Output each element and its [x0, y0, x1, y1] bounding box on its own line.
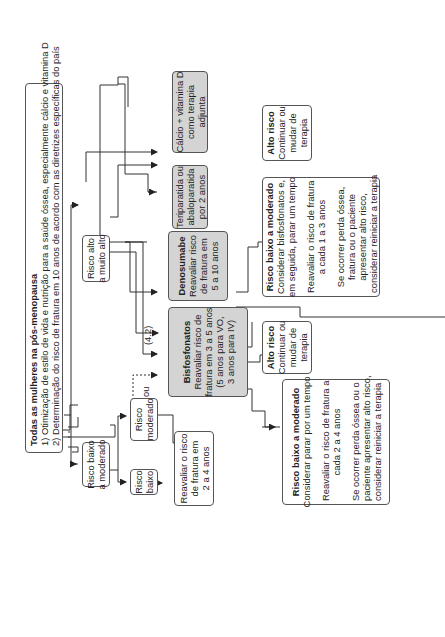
note-paragraph: Se ocorrer perda óssea ou o paciente apr…	[350, 383, 383, 501]
label: Reavaliar o risco	[178, 434, 189, 504]
label: a muito alto	[96, 234, 107, 282]
label: cada 2 a 4 anos	[331, 383, 342, 501]
label: 2 a 4 anos	[200, 447, 211, 491]
label: como terapia	[185, 85, 196, 139]
label: mudar de	[287, 113, 298, 153]
label: Risco alto	[85, 238, 96, 279]
label: Reavaliar risco	[187, 235, 198, 297]
label: Cálcio + vitamina D	[174, 71, 185, 152]
label: considerar reiniciar a terapia	[368, 181, 379, 293]
teriparatide-box: Teriparatida ou abaloparatida por 2 anos	[172, 165, 208, 229]
intro-line-1: 1) Otimização de estilo de vida e nutriç…	[39, 42, 50, 446]
label: fratura ou o paciente	[346, 181, 357, 293]
label: Reavaliar o risco de fratura	[305, 181, 316, 293]
label: adjunta	[196, 97, 207, 128]
title: Alto risco	[265, 326, 276, 369]
risk-low-box: Risco baixo	[130, 469, 158, 495]
intro-line-2: 2) Determinação do risco de fratura em 1…	[50, 46, 61, 446]
label: terapia	[298, 119, 309, 148]
risk-high-box: Risco alto a muito alto	[82, 235, 110, 282]
label: considerar reiniciar a terapia	[372, 383, 383, 501]
label: Considerar parar por um tempo	[301, 377, 312, 508]
title: Denosumabe	[176, 237, 187, 296]
label: Continuar ou	[276, 321, 287, 375]
reassess-paragraph: Reavaliar o risco de fratura a cada 2 a …	[320, 383, 342, 501]
title: Bisfosfonatos	[181, 321, 192, 384]
denosumab-box: Denosumabe Reavaliar risco de fratura em…	[168, 231, 228, 301]
label: baixo	[144, 471, 155, 493]
den-low-moderate-outcome: Risco baixo a moderado Considerar bisfos…	[262, 177, 380, 297]
label: Risco baixo	[85, 440, 96, 488]
den-high-risk-outcome: Alto risco Continuar ou mudar de terapia	[262, 105, 312, 161]
label: Risco	[133, 470, 144, 493]
label: fratura em 3 a 5 anos	[203, 307, 214, 396]
reference-label: (4.2)	[142, 326, 153, 345]
flowchart-canvas: Todas as mulheres na pós-menopausa 1) Ot…	[0, 0, 445, 637]
label: mudar de	[287, 328, 298, 368]
label: de fratura em	[198, 238, 209, 294]
label: moderado	[144, 398, 155, 440]
label: terapia	[298, 333, 309, 362]
label: de fratura em	[189, 441, 200, 497]
bis-high-risk-outcome: Alto risco Continuar ou mudar de terapia	[262, 321, 312, 374]
label: 5 a 10 anos	[209, 242, 220, 291]
title: Risco baixo a moderado	[290, 388, 301, 496]
intro-title: Todas as mulheres na pós-menopausa	[28, 274, 39, 446]
risk-moderate-box: Risco moderado	[130, 398, 158, 441]
title: Risco baixo a moderado	[264, 183, 275, 291]
reassess-paragraph: Reavaliar o risco de fratura a cada 1 a …	[305, 181, 327, 293]
label: Se ocorrer perda óssea,	[335, 181, 346, 293]
label: Teriparatida ou	[174, 166, 185, 228]
label: Risco	[133, 408, 144, 431]
risk-low-moderate-box: Risco baixo a moderado	[82, 442, 110, 487]
bis-low-moderate-outcome: Risco baixo a moderado Considerar parar …	[282, 379, 390, 505]
label: Considerar bisfosfonatos e,	[275, 180, 286, 294]
label: a cada 1 a 3 anos	[316, 181, 327, 293]
bisphosphonates-box: Bisfosfonatos Reavaliar risco de fratura…	[168, 307, 248, 397]
label: a moderado	[96, 439, 107, 489]
title: Alto risco	[265, 111, 276, 154]
label: em seguida, parar um tempo	[286, 177, 297, 297]
label: paciente apresentar alto risco,	[361, 383, 372, 501]
label: Se ocorrer perda óssea ou o	[350, 383, 361, 501]
reassess-2-4-box: Reavaliar o risco de fratura em 2 a 4 an…	[174, 431, 214, 506]
label: Reavaliar o risco de fratura a	[320, 383, 331, 501]
label: abaloparatida	[185, 169, 196, 226]
label: Continuar ou	[276, 106, 287, 160]
note-paragraph: Se ocorrer perda óssea, fratura ou o pac…	[335, 181, 379, 293]
label: por 2 anos	[196, 175, 207, 219]
or-label: ou	[140, 387, 151, 397]
label: apresentar alto risco,	[357, 181, 368, 293]
label: Reavaliar risco de	[192, 314, 203, 389]
label: (5 anos para VO,	[214, 316, 225, 387]
calcium-vitd-box: Cálcio + vitamina D como terapia adjunta	[172, 71, 208, 153]
label: 3 anos para IV)	[225, 320, 236, 384]
intro-box: Todas as mulheres na pós-menopausa 1) Ot…	[25, 83, 63, 453]
